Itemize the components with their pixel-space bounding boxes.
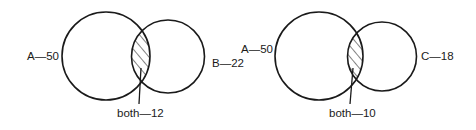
- set-a-label: A—50: [27, 50, 59, 62]
- intersection-label: both—12: [117, 107, 164, 119]
- intersection-label: both—10: [329, 107, 376, 119]
- figure-svg: A—50 B—22 both—12 A—50 C—18 both—10: [0, 0, 476, 130]
- venn-diagram-a-b: A—50 B—22 both—12: [27, 12, 244, 119]
- set-c-label: C—18: [421, 50, 454, 62]
- set-b-label: B—22: [212, 57, 244, 69]
- set-a-label: A—50: [241, 43, 273, 55]
- venn-diagram-a-c: A—50 C—18 both—10: [241, 12, 454, 119]
- venn-diagrams-figure: A—50 B—22 both—12 A—50 C—18 both—10: [0, 0, 476, 130]
